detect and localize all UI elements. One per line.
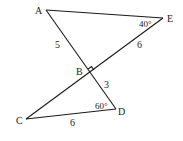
geometry-diagram: A E B C D 5 6 3 6 40° 60° [0, 0, 183, 141]
segment-ae [46, 10, 163, 18]
point-label-d: D [118, 106, 125, 117]
point-label-e: E [167, 13, 173, 24]
right-angle-marker [88, 67, 94, 70]
point-label-b: B [76, 66, 83, 77]
point-label-a: A [35, 5, 43, 16]
point-label-c: C [16, 115, 23, 126]
segment-ad [46, 10, 116, 109]
length-ab: 5 [55, 39, 60, 50]
angle-e: 40° [139, 19, 152, 29]
length-cd: 6 [70, 117, 75, 128]
angle-d: 60° [95, 101, 108, 111]
length-bd: 3 [104, 79, 109, 90]
length-be: 6 [137, 39, 142, 50]
